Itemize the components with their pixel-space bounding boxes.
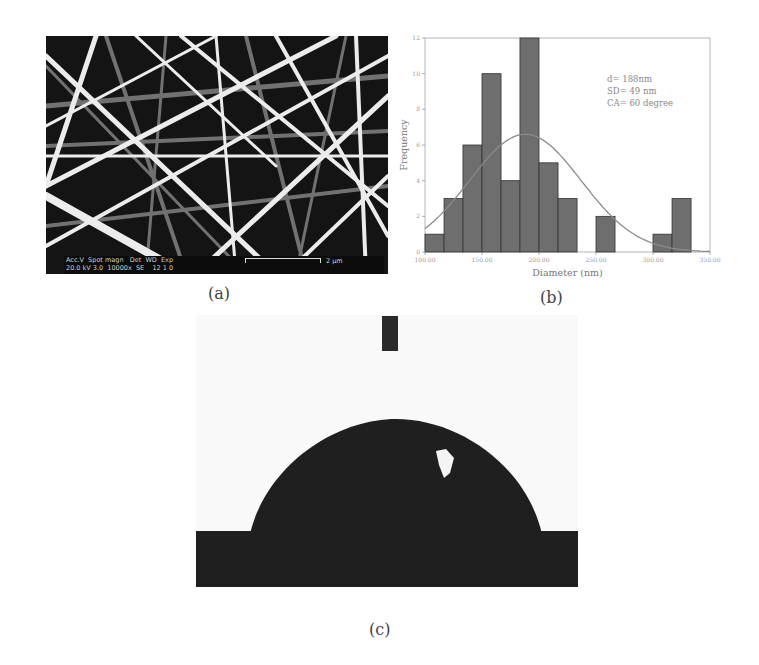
y-tick-label: 4 [416,177,420,184]
y-axis-label: Frequency [398,119,409,171]
scale-bar [245,258,321,263]
histogram-bar [501,181,520,252]
histogram-bar [482,74,501,252]
syringe-needle [382,316,398,351]
sem-image-nanofibers: Acc.V Spot magn Det WD Exp 20.0 kV 3.0 1… [46,36,388,274]
panel-label-c: (c) [369,620,390,639]
droplet-graphic [196,315,578,587]
y-tick-label: 6 [416,141,420,148]
sem-info-bar: Acc.V Spot magn Det WD Exp 20.0 kV 3.0 1… [64,256,384,274]
substrate [196,531,578,587]
y-tick-label: 8 [416,105,420,112]
x-tick-label: 200.00 [529,256,550,263]
x-tick-label: 350.00 [700,256,721,263]
stats-annotation: SD= 49 nm [607,86,657,96]
histogram-bar [463,145,482,252]
histogram-plot: 024681012100.00150.00200.00250.00300.003… [395,30,725,290]
diameter-histogram: 024681012100.00150.00200.00250.00300.003… [395,30,725,290]
histogram-bar [558,199,577,253]
x-tick-label: 150.00 [472,256,493,263]
histogram-bar [596,216,615,252]
stats-annotation: d= 188nm [607,74,652,84]
y-tick-label: 12 [412,34,420,41]
panel-label-a: (a) [208,284,230,303]
stats-annotation: CA= 60 degree [607,98,673,108]
y-tick-label: 2 [416,212,420,219]
histogram-bar [444,199,463,253]
sem-info-row-2: 20.0 kV 3.0 10000x SE 12 1 0 [66,264,384,272]
x-tick-label: 250.00 [586,256,607,263]
fiber-network-graphic [46,36,388,274]
scale-bar-label: 2 µm [326,257,343,265]
histogram-bar [520,38,539,252]
histogram-bar [653,234,672,252]
y-tick-label: 10 [412,70,420,77]
panel-label-b: (b) [540,288,563,307]
x-tick-label: 100.00 [415,256,436,263]
histogram-bar [425,234,444,252]
histogram-bar [672,199,691,253]
y-tick-label: 0 [416,248,420,255]
histogram-bar [539,163,558,252]
contact-angle-image [196,315,578,587]
x-axis-label: Diameter (nm) [532,267,603,278]
x-tick-label: 300.00 [643,256,664,263]
